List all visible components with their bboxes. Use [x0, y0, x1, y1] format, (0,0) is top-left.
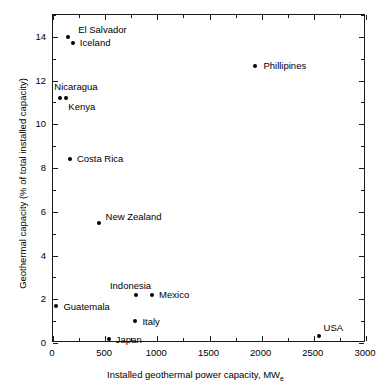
x-tick-top-500 [105, 15, 106, 20]
x-minor-tick-top-250 [79, 15, 80, 18]
data-point-label: Costa Rica [77, 153, 123, 164]
y-tick-right-6 [359, 212, 364, 213]
data-point-label: Italy [142, 316, 159, 327]
y-minor-tick-right-9 [361, 146, 364, 147]
x-minor-tick-top-750 [131, 15, 132, 18]
x-tick-label-0: 0 [49, 347, 54, 358]
y-tick-8 [53, 168, 58, 169]
x-tick-label-3000: 3000 [354, 347, 375, 358]
x-tick-1500 [210, 336, 211, 341]
x-tick-label-2500: 2500 [302, 347, 323, 358]
x-minor-tick-top-1250 [183, 15, 184, 18]
y-tick-right-2 [359, 299, 364, 300]
data-point-label: Indonesia [110, 280, 151, 291]
x-tick-top-2000 [262, 15, 263, 20]
data-point [134, 293, 138, 297]
x-axis-title-text: Installed geothermal power capacity, MW [107, 369, 280, 380]
data-point [66, 35, 70, 39]
y-tick-right-10 [359, 124, 364, 125]
x-minor-tick-top-1750 [236, 15, 237, 18]
x-tick-top-1500 [210, 15, 211, 20]
y-minor-tick-right-15 [361, 15, 364, 16]
data-point [317, 334, 321, 338]
data-point-label: Mexico [159, 289, 189, 300]
data-point-label: Phillipines [263, 60, 306, 71]
y-minor-tick-13 [53, 59, 56, 60]
x-minor-tick-1250 [183, 338, 184, 341]
y-minor-tick-11 [53, 102, 56, 103]
y-axis-title: Geothermal capacity (% of total installe… [17, 20, 28, 348]
y-minor-tick-right-13 [361, 59, 364, 60]
x-tick-1000 [157, 336, 158, 341]
y-minor-tick-9 [53, 146, 56, 147]
data-point-label: Iceland [80, 37, 111, 48]
data-point [97, 221, 101, 225]
y-tick-right-12 [359, 81, 364, 82]
data-point-label: El Salvador [78, 24, 127, 35]
x-tick-3000 [366, 336, 367, 341]
y-minor-tick-3 [53, 277, 56, 278]
y-minor-tick-7 [53, 190, 56, 191]
data-point [68, 157, 72, 161]
data-point-label: New Zealand [106, 211, 162, 222]
y-tick-4 [53, 256, 58, 257]
x-minor-tick-top-2750 [340, 15, 341, 18]
x-tick-label-1000: 1000 [146, 347, 167, 358]
geothermal-scatter-figure: El SalvadorIcelandPhillipinesNicaraguaKe… [0, 0, 391, 391]
y-tick-2 [53, 299, 58, 300]
y-tick-right-0 [359, 343, 364, 344]
x-tick-2000 [262, 336, 263, 341]
y-tick-0 [53, 343, 58, 344]
data-point-label: Guatemala [63, 301, 109, 312]
y-tick-6 [53, 212, 58, 213]
data-point [58, 96, 62, 100]
y-tick-10 [53, 124, 58, 125]
x-tick-label-500: 500 [96, 347, 112, 358]
x-tick-label-1500: 1500 [198, 347, 219, 358]
y-tick-right-14 [359, 37, 364, 38]
y-minor-tick-15 [53, 15, 56, 16]
x-minor-tick-top-2250 [288, 15, 289, 18]
y-minor-tick-right-11 [361, 102, 364, 103]
x-axis-title-subscript: e [280, 375, 284, 382]
x-tick-top-2500 [314, 15, 315, 20]
y-minor-tick-1 [53, 321, 56, 322]
y-tick-right-4 [359, 256, 364, 257]
data-point [64, 96, 68, 100]
data-point [150, 293, 154, 297]
x-minor-tick-2750 [340, 338, 341, 341]
x-tick-top-3000 [366, 15, 367, 20]
x-minor-tick-2250 [288, 338, 289, 341]
x-tick-0 [53, 336, 54, 341]
y-tick-right-8 [359, 168, 364, 169]
data-point [253, 64, 257, 68]
x-tick-2500 [314, 336, 315, 341]
data-point [107, 337, 111, 341]
data-point-label: Kenya [68, 101, 95, 112]
x-axis-title: Installed geothermal power capacity, MWe [0, 369, 391, 382]
y-minor-tick-right-3 [361, 277, 364, 278]
y-tick-14 [53, 37, 58, 38]
y-minor-tick-right-5 [361, 234, 364, 235]
data-point [54, 304, 58, 308]
data-point [71, 41, 75, 45]
data-point-label: Japan [116, 334, 142, 345]
data-point-label: Nicaragua [54, 81, 97, 92]
plot-area: El SalvadorIcelandPhillipinesNicaraguaKe… [52, 14, 365, 342]
data-point [133, 319, 137, 323]
x-tick-label-2000: 2000 [250, 347, 271, 358]
y-minor-tick-right-1 [361, 321, 364, 322]
x-minor-tick-1750 [236, 338, 237, 341]
x-tick-top-1000 [157, 15, 158, 20]
data-point-label: USA [324, 322, 344, 333]
y-minor-tick-right-7 [361, 190, 364, 191]
x-minor-tick-250 [79, 338, 80, 341]
y-minor-tick-5 [53, 234, 56, 235]
